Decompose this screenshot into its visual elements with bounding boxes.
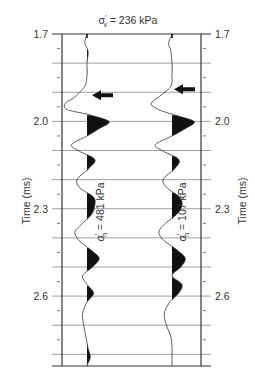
y-tick-label-right: 1.7 (215, 28, 230, 40)
traces (64, 34, 194, 366)
chart-title: σ′v = 236 kPa (99, 14, 158, 28)
y-tick-label-left: 2.3 (33, 203, 48, 215)
y-tick-label-right: 2.3 (215, 203, 230, 215)
y-tick-label-right: 2.0 (215, 115, 230, 127)
y-tick-label-left: 2.6 (33, 290, 48, 302)
series-label-value: = 107 kPa (176, 182, 188, 233)
arrow-icon-0 (92, 90, 113, 100)
y-tick-label-left: 1.7 (33, 28, 48, 40)
y-tick-label-left: 2.0 (33, 115, 48, 127)
series-label-107: σ′h = 107 kPa (176, 182, 190, 241)
series-label-481: σ′h = 481 kPa (94, 182, 108, 241)
series-label-value: = 481 kPa (94, 182, 106, 233)
seismic-trace-figure: σ′v = 236 kPa 1.71.72.02.02.32.32.62.6 T… (0, 0, 255, 381)
title-value: = 236 kPa (107, 14, 158, 26)
tick-labels: 1.71.72.02.02.32.32.62.6 (33, 28, 229, 302)
y-axis-label-right: Time (ms) (236, 178, 248, 225)
y-tick-label-right: 2.6 (215, 290, 230, 302)
arrow-icon-1 (174, 84, 195, 94)
y-axis-label-left: Time (ms) (20, 178, 32, 225)
